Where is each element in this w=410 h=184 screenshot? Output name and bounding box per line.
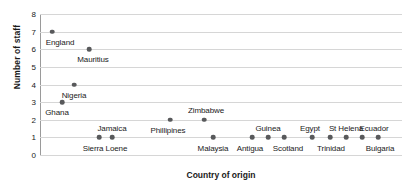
data-point-label: Malaysia bbox=[198, 144, 229, 153]
data-point[interactable] bbox=[360, 135, 365, 140]
data-point-label: Bulgaria bbox=[366, 144, 395, 153]
data-point[interactable] bbox=[202, 117, 207, 122]
gridline-y-4 bbox=[40, 85, 402, 86]
gridline-y-5 bbox=[40, 67, 402, 68]
y-tick-label-4: 4 bbox=[6, 80, 36, 89]
data-point-label: Nigeria bbox=[62, 91, 87, 100]
data-point[interactable] bbox=[72, 82, 77, 87]
data-point[interactable] bbox=[168, 117, 173, 122]
data-point[interactable] bbox=[344, 135, 349, 140]
data-point-label: St Helena bbox=[329, 124, 363, 133]
y-tick-label-8: 8 bbox=[6, 10, 36, 19]
data-point[interactable] bbox=[97, 135, 102, 140]
data-point[interactable] bbox=[50, 29, 55, 34]
y-tick-label-5: 5 bbox=[6, 62, 36, 71]
scatter-chart: Number of staff 012345678 Country of ori… bbox=[0, 0, 410, 184]
y-tick-label-1: 1 bbox=[6, 133, 36, 142]
data-point-label: Ghana bbox=[45, 108, 69, 117]
data-point-label: Zimbabwe bbox=[188, 106, 224, 115]
data-point[interactable] bbox=[266, 135, 271, 140]
data-point[interactable] bbox=[87, 47, 92, 52]
y-tick-label-0: 0 bbox=[6, 151, 36, 160]
data-point-label: Phillipines bbox=[151, 126, 186, 135]
data-point-label: Ecuador bbox=[359, 124, 388, 133]
y-tick-label-3: 3 bbox=[6, 98, 36, 107]
plot-area bbox=[40, 14, 402, 155]
data-point[interactable] bbox=[328, 135, 333, 140]
y-tick-label-7: 7 bbox=[6, 27, 36, 36]
x-axis-title: Country of origin bbox=[40, 170, 402, 180]
data-point[interactable] bbox=[250, 135, 255, 140]
data-point-label: England bbox=[46, 38, 75, 47]
data-point-label: Trinidad bbox=[317, 144, 345, 153]
data-point-label: Mauritius bbox=[77, 55, 109, 64]
gridline-y-2 bbox=[40, 120, 402, 121]
gridline-y-7 bbox=[40, 32, 402, 33]
data-point-label: Antigua bbox=[237, 144, 263, 153]
data-point[interactable] bbox=[282, 135, 287, 140]
data-point[interactable] bbox=[310, 135, 315, 140]
gridline-y-0 bbox=[40, 155, 402, 156]
data-point[interactable] bbox=[376, 135, 381, 140]
data-point[interactable] bbox=[211, 135, 216, 140]
y-axis-tick-labels: 012345678 bbox=[0, 0, 36, 184]
gridline-y-3 bbox=[40, 102, 402, 103]
data-point-label: Egypt bbox=[300, 124, 320, 133]
gridline-y-8 bbox=[40, 14, 402, 15]
data-point-label: Jamaica bbox=[97, 124, 126, 133]
data-point[interactable] bbox=[60, 100, 65, 105]
data-point-label: Guinea bbox=[255, 124, 280, 133]
y-tick-label-6: 6 bbox=[6, 45, 36, 54]
data-point-label: Scotland bbox=[273, 144, 303, 153]
data-point-label: Sierra Loene bbox=[83, 144, 128, 153]
y-tick-label-2: 2 bbox=[6, 115, 36, 124]
data-point[interactable] bbox=[110, 135, 115, 140]
gridline-y-6 bbox=[40, 49, 402, 50]
